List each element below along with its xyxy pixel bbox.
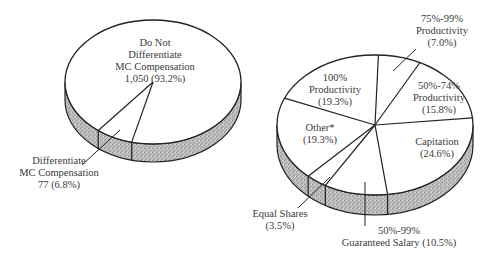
label-do-not-differentiate: Do Not Differentiate MC Compensation 1,0… <box>108 37 202 85</box>
label-75-99-productivity: 75%-99% Productivity (7.0%) <box>406 13 478 49</box>
label-differentiate: Differentiate MC Compensation 77 (6.8%) <box>14 155 104 191</box>
label-capitation: Capitation (24.6%) <box>402 136 472 160</box>
label-other: Other* (19.3%) <box>293 122 347 146</box>
label-equal-shares: Equal Shares (3.5%) <box>248 208 312 232</box>
label-guaranteed-salary: 50%-99% Guaranteed Salary (10.5%) <box>330 225 468 249</box>
label-100-productivity: 100% Productivity (19.3%) <box>302 72 368 108</box>
label-50-74-productivity: 50%-74% Productivity (15.8%) <box>403 80 475 116</box>
